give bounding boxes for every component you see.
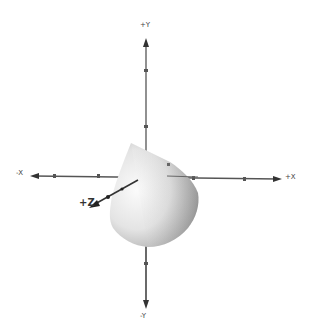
x-axis-arrow-left-icon — [30, 173, 39, 179]
pos-y-label: +Y — [140, 22, 150, 29]
pos-x-label: +X — [285, 174, 296, 181]
3d-viewport[interactable]: +Y -Y -X +X +Z — [0, 0, 313, 330]
x-axis-arrow-right-icon — [273, 176, 282, 182]
neg-y-label: -Y — [140, 313, 146, 320]
scene-canvas — [0, 0, 313, 330]
y-axis-arrow-up-icon — [143, 38, 149, 47]
y-axis-arrow-down-icon — [143, 300, 149, 309]
pos-z-label: +Z — [79, 198, 95, 208]
cone-shape[interactable] — [110, 143, 199, 247]
neg-x-label: -X — [16, 170, 23, 177]
